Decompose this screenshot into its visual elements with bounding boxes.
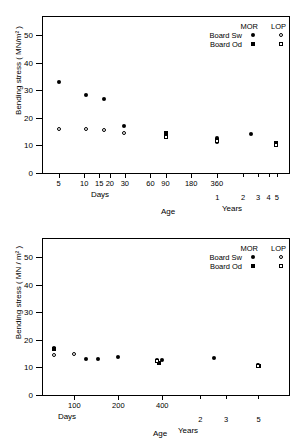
x-axis-title-top: Age (161, 207, 175, 216)
x-axis-line-bottom (42, 395, 290, 396)
y-tick (36, 118, 42, 119)
y-tick-label: 40 (8, 59, 33, 68)
y-tick-label: 50 (8, 31, 33, 40)
figure-root: Bending stress ( MN/m² ) 01020304050 510… (0, 0, 304, 444)
data-point (212, 356, 216, 360)
x-tick-years (258, 173, 259, 177)
chart-panel-top: Bending stress ( MN/m² ) 01020304050 510… (0, 0, 304, 222)
x-tick-days (166, 173, 167, 178)
x-tick-label-days: 5 (56, 179, 60, 188)
data-point (84, 93, 88, 97)
x-tick-days (59, 173, 60, 178)
data-point (57, 127, 61, 131)
x-tick-years (258, 395, 259, 399)
x-tick-years (217, 173, 218, 177)
x-tick-label-days: 30 (121, 179, 129, 188)
y-tick (36, 145, 42, 146)
legend-header-mor-bottom: MOR (241, 244, 259, 253)
data-point (274, 143, 278, 147)
legend-label-board-sw-bottom: Board Sw (209, 253, 242, 262)
x-axis-title-bottom: Age (153, 429, 167, 438)
x-tick-label-years: 4 (267, 193, 271, 202)
legend-marker-open-circle-icon-top (279, 33, 283, 37)
x-tick-label-days: 400 (156, 401, 169, 410)
data-point (256, 364, 260, 368)
data-point (122, 124, 126, 128)
x-tick-label-years: 5 (256, 415, 260, 424)
legend-marker-filled-square-icon-top (251, 42, 255, 46)
data-point (215, 139, 219, 143)
y-tick-label: 20 (8, 336, 33, 345)
data-point (84, 127, 88, 131)
legend-marker-open-square-icon-top (279, 42, 283, 46)
data-point (52, 347, 56, 351)
x-tick-label-days: 200 (112, 401, 125, 410)
x-tick-label-days: 180 (185, 179, 198, 188)
x-tick-days (99, 173, 100, 178)
data-point (164, 135, 168, 139)
y-tick (36, 367, 42, 368)
x-unit-label-days-top: Days (91, 190, 109, 199)
y-tick (36, 35, 42, 36)
y-tick (36, 340, 42, 341)
y-tick (36, 173, 42, 174)
x-tick-label-years: 1 (215, 193, 219, 202)
x-tick-days (118, 395, 119, 400)
y-tick (36, 90, 42, 91)
x-tick-days (110, 173, 111, 178)
data-point (155, 359, 159, 363)
x-tick-years (226, 395, 227, 399)
x-tick-label-years: 2 (241, 193, 245, 202)
x-tick-days (84, 173, 85, 178)
x-tick-years (243, 173, 244, 177)
x-tick-years (277, 173, 278, 177)
legend-marker-open-circle-icon-bottom (279, 255, 283, 259)
y-tick (36, 312, 42, 313)
x-unit-label-years-top: Years (222, 204, 242, 213)
x-tick-days (74, 395, 75, 400)
y-tick-label: 0 (8, 169, 33, 178)
x-tick-label-days: 20 (106, 179, 114, 188)
x-tick-label-years: 2 (198, 415, 202, 424)
legend-header-row-bottom: MOR LOP (178, 244, 288, 253)
legend-marker-filled-square-icon-bottom (251, 264, 255, 268)
y-tick-label: 50 (8, 253, 33, 262)
x-tick-label-days: 10 (80, 179, 88, 188)
x-tick-label-days: 100 (68, 401, 81, 410)
legend-top: MOR LOP Board Sw Board Od (178, 22, 288, 49)
x-tick-days (162, 395, 163, 400)
x-tick-label-days: 360 (211, 179, 224, 188)
legend-marker-filled-circle-icon-top (251, 33, 255, 37)
y-tick-label: 0 (8, 391, 33, 400)
x-tick-label-years: 3 (256, 193, 260, 202)
legend-row-board-sw-bottom: Board Sw (178, 253, 288, 262)
y-tick (36, 395, 42, 396)
x-unit-label-days-bottom: Days (58, 412, 76, 421)
data-point (249, 132, 253, 136)
legend-label-board-od-bottom: Board Od (210, 262, 242, 271)
data-point (102, 128, 106, 132)
x-tick-label-days: 15 (95, 179, 103, 188)
x-tick-days (191, 173, 192, 178)
x-tick-label-days: 90 (161, 179, 169, 188)
data-point (102, 97, 106, 101)
legend-header-mor-top: MOR (241, 22, 259, 31)
y-tick (36, 63, 42, 64)
legend-header-row-top: MOR LOP (178, 22, 288, 31)
legend-header-lop-bottom: LOP (271, 244, 286, 253)
legend-header-lop-top: LOP (271, 22, 286, 31)
data-point (52, 353, 56, 357)
legend-bottom: MOR LOP Board Sw Board Od (178, 244, 288, 271)
x-tick-label-years: 5 (275, 193, 279, 202)
x-tick-days (125, 173, 126, 178)
data-point (72, 352, 76, 356)
y-tick-label: 10 (8, 363, 33, 372)
y-tick-label: 30 (8, 86, 33, 95)
y-tick (36, 285, 42, 286)
legend-marker-open-square-icon-bottom (279, 264, 283, 268)
x-unit-label-years-bottom: Years (178, 426, 198, 435)
data-point (57, 80, 61, 84)
y-tick-label: 10 (8, 141, 33, 150)
data-point (96, 357, 100, 361)
x-tick-label-years: 3 (224, 415, 228, 424)
